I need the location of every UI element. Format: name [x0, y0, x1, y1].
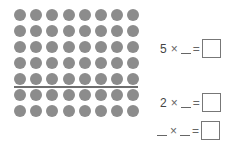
dot [63, 25, 75, 37]
dot [14, 9, 26, 21]
dot [79, 57, 91, 69]
factor-2-blank[interactable] [181, 97, 191, 108]
dot [63, 9, 75, 21]
dot [127, 25, 139, 37]
factor-1: 2 [160, 96, 167, 110]
dot [46, 25, 58, 37]
dot-row [14, 25, 140, 41]
dot [46, 89, 58, 101]
dot [14, 57, 26, 69]
dot [127, 73, 139, 85]
dot [63, 41, 75, 53]
dot [14, 105, 26, 117]
times-sign: × [171, 96, 178, 110]
dot [111, 73, 123, 85]
equation-2: 2 × = [160, 93, 221, 112]
dot [95, 41, 107, 53]
dot-row [14, 89, 140, 105]
answer-box[interactable] [202, 93, 221, 112]
dot [79, 105, 91, 117]
answer-box[interactable] [201, 121, 220, 140]
dot-row [14, 57, 140, 73]
dot-array [14, 9, 140, 121]
dot [95, 73, 107, 85]
dot [111, 25, 123, 37]
factor-2-blank[interactable] [180, 125, 190, 136]
dot [63, 57, 75, 69]
dot [95, 105, 107, 117]
array-divider-line [14, 86, 138, 88]
dot [46, 105, 58, 117]
dot-row [14, 9, 140, 25]
dot [30, 41, 42, 53]
dot [30, 73, 42, 85]
dot [95, 9, 107, 21]
dot [46, 41, 58, 53]
dot [111, 9, 123, 21]
answer-box[interactable] [202, 39, 221, 58]
dot [14, 89, 26, 101]
dot [111, 41, 123, 53]
dot [63, 73, 75, 85]
dot [46, 9, 58, 21]
dot [111, 89, 123, 101]
factor-1-blank[interactable] [157, 125, 167, 136]
dot [127, 57, 139, 69]
dot [30, 89, 42, 101]
equals-sign: = [193, 96, 200, 110]
dot-row [14, 105, 140, 121]
dot [46, 57, 58, 69]
dot [127, 41, 139, 53]
dot [127, 105, 139, 117]
dot [63, 89, 75, 101]
dot [63, 105, 75, 117]
dot [30, 105, 42, 117]
dot [111, 105, 123, 117]
equation-1: 5 × = [160, 39, 221, 58]
dot [111, 57, 123, 69]
dot [95, 57, 107, 69]
dot [79, 89, 91, 101]
dot [79, 9, 91, 21]
dot [14, 41, 26, 53]
dot [30, 9, 42, 21]
equation-3: × = [157, 121, 220, 140]
factor-2-blank[interactable] [181, 43, 191, 54]
dot [14, 73, 26, 85]
dot [95, 25, 107, 37]
dot [30, 57, 42, 69]
dot [79, 73, 91, 85]
factor-1: 5 [160, 42, 167, 56]
dot [95, 89, 107, 101]
dot [127, 9, 139, 21]
dot [14, 25, 26, 37]
dot [46, 73, 58, 85]
dot-row [14, 41, 140, 57]
equals-sign: = [192, 124, 199, 138]
dot [127, 89, 139, 101]
dot [79, 25, 91, 37]
times-sign: × [170, 124, 177, 138]
dot [79, 41, 91, 53]
times-sign: × [171, 42, 178, 56]
equals-sign: = [193, 42, 200, 56]
dot [30, 25, 42, 37]
